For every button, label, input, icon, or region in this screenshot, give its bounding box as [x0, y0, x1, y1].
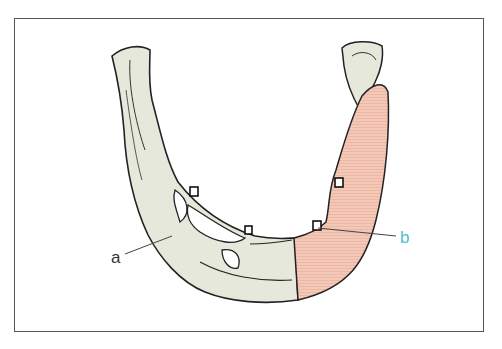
mandible-diagram	[0, 0, 502, 349]
implant-icon	[245, 226, 252, 234]
bone-graft	[294, 85, 389, 300]
implant-icon	[190, 187, 198, 196]
label-a: a	[111, 249, 120, 266]
label-b: b	[400, 229, 409, 246]
native-mandible	[112, 47, 298, 303]
implant-icon	[335, 178, 343, 187]
